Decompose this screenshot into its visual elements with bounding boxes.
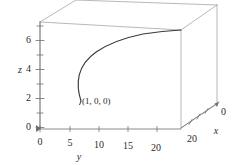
space-curve <box>78 30 181 101</box>
box-edge-back-top-right <box>181 5 217 30</box>
x-axis-label: x <box>214 126 218 136</box>
box-edge-back-top-left <box>40 0 76 22</box>
z-tick-label-4: 4 <box>26 64 31 74</box>
z-tick-label-6: 6 <box>26 35 31 45</box>
plot-canvas <box>0 0 235 165</box>
y-tick-label-0: 0 <box>38 137 43 147</box>
box-edge-back-top-rear <box>76 0 217 5</box>
y-axis-label: y <box>77 152 81 162</box>
figure-3d-space-curve: 0 2 4 6 z 0 5 10 15 20 y 20 0 x (1, 0, 0… <box>0 0 235 165</box>
z-tick-label-2: 2 <box>26 93 31 103</box>
curve-start-point-label: (1, 0, 0) <box>82 97 111 106</box>
z-axis-label: z <box>18 65 22 75</box>
bounding-box-wireframe <box>40 0 217 128</box>
z-axis <box>36 22 44 128</box>
y-tick-label-15: 15 <box>123 141 133 151</box>
y-tick-label-20: 20 <box>151 143 161 153</box>
y-axis <box>36 125 181 132</box>
x-tick-label-20: 20 <box>187 134 197 144</box>
x-tick-label-0: 0 <box>221 107 226 117</box>
z-tick-label-0: 0 <box>26 122 31 132</box>
curve-start-leader <box>80 101 82 105</box>
y-tick-label-5: 5 <box>68 138 73 148</box>
box-edge-front-top <box>40 22 181 30</box>
y-tick-label-10: 10 <box>94 140 104 150</box>
